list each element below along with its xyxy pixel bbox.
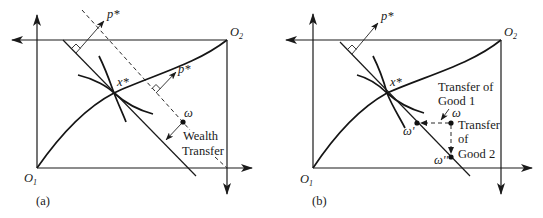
origin1-label: O1 xyxy=(300,172,313,188)
endowment-point xyxy=(180,119,185,124)
equilibrium-label: x* xyxy=(389,75,403,89)
panel-b: p* x* ω ω' ω'' Transfer of Good 1 Transf… xyxy=(286,9,532,208)
equilibrium-budget-line xyxy=(63,40,196,176)
panel-a: p* p* x* ω Wealth Transfer O1 O2 (a) xyxy=(12,7,252,208)
wealth-transfer-leader xyxy=(215,157,227,168)
wealth-transfer-label-line1: Wealth xyxy=(183,129,219,143)
edgeworth-box-figure: p* p* x* ω Wealth Transfer O1 O2 (a) xyxy=(0,0,543,218)
transfer-good1-label-line1: Transfer of xyxy=(438,80,494,94)
wealth-transfer-arrow xyxy=(166,124,181,140)
endowment-prime-label: ω' xyxy=(403,124,415,138)
transfer-good2-label-line3: Good 2 xyxy=(458,147,495,161)
price-label: p* xyxy=(380,9,394,23)
origin2-label: O2 xyxy=(230,25,243,41)
panel-a-caption: (a) xyxy=(36,194,50,208)
price-label-1: p* xyxy=(106,7,120,21)
transfer-good2-label-line1: Transfer xyxy=(458,118,501,132)
endowment-point xyxy=(448,120,453,125)
wealth-transfer-label-line2: Transfer xyxy=(182,144,225,158)
equilibrium-label: x* xyxy=(116,75,130,89)
endowment-double-prime-label: ω'' xyxy=(434,153,448,167)
origin2-label: O2 xyxy=(504,25,517,41)
transfer-good1-label-line2: Good 1 xyxy=(438,94,475,108)
endowment-double-prime-point xyxy=(448,154,453,159)
right-angle-marker xyxy=(348,45,357,50)
right-angle-marker-1 xyxy=(72,44,81,49)
endowment-prime-point xyxy=(414,120,419,125)
transfer-good1-leader xyxy=(441,109,449,120)
origin1-label: O1 xyxy=(24,171,37,187)
endowment-label: ω xyxy=(184,106,193,120)
transfer-good2-arrowhead xyxy=(448,147,454,154)
transfer-good2-label-line2: of xyxy=(458,132,469,146)
price-label-2: p* xyxy=(177,62,191,76)
panel-b-caption: (b) xyxy=(312,194,327,208)
